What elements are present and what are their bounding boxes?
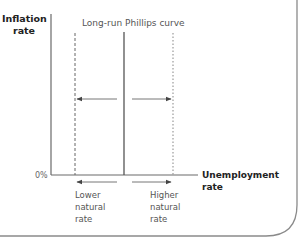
curve-label: Long-run Phillips curve <box>82 17 185 29</box>
lower-natural-rate-label: Lower natural rate <box>75 189 105 225</box>
higher-natural-rate-label: Higher natural rate <box>150 189 180 225</box>
x-axis-label: Unemployment rate <box>202 169 302 193</box>
origin-label: 0% <box>35 170 48 182</box>
y-axis-label: Inflation rate <box>2 13 46 37</box>
